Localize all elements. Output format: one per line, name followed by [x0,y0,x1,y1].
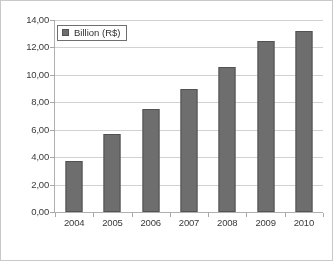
x-axis-tick-mark [285,213,286,217]
bar [66,161,83,212]
bar-column [55,20,93,212]
y-axis-tick-label: 2,00 [1,179,49,190]
plot-area [55,20,323,212]
y-axis-tick-label: 14,00 [1,14,49,25]
y-axis-tick-label: 10,00 [1,69,49,80]
bar-column [170,20,208,212]
chart-legend: Billion (R$) [57,25,127,41]
bar [104,134,121,212]
x-axis-tick-label: 2009 [246,217,284,228]
x-axis-tick-label: 2005 [93,217,131,228]
bar [142,109,159,212]
bar-column [93,20,131,212]
bar [180,89,197,212]
y-axis-tick-mark [50,130,55,131]
y-axis-tick-mark [50,20,55,21]
x-axis-tick-mark [208,213,209,217]
x-axis-line [54,212,323,213]
bar-column [285,20,323,212]
bar-column [246,20,284,212]
y-axis-tick-mark [50,185,55,186]
bar-chart: 0,002,004,006,008,0010,0012,0014,00 2004… [0,0,333,261]
legend-color-swatch [62,29,69,36]
y-axis-tick-mark [50,157,55,158]
x-axis-tick-label: 2004 [55,217,93,228]
x-axis-tick-mark [246,213,247,217]
y-axis-tick-label: 4,00 [1,151,49,162]
bar-column [132,20,170,212]
x-axis-tick-label: 2007 [170,217,208,228]
x-axis-tick-mark [93,213,94,217]
y-axis-tick-label: 8,00 [1,96,49,107]
x-axis-tick-mark [132,213,133,217]
y-axis-tick-label: 12,00 [1,41,49,52]
legend-label: Billion (R$) [74,28,120,38]
y-axis-tick-mark [50,75,55,76]
x-axis-tick-label: 2008 [208,217,246,228]
bar [219,67,236,212]
y-axis-tick-mark [50,47,55,48]
y-axis-tick-label: 0,00 [1,206,49,217]
bar-column [208,20,246,212]
y-axis-tick-label: 6,00 [1,124,49,135]
y-axis: 0,002,004,006,008,0010,0012,0014,00 [1,1,51,263]
x-axis-tick-mark [170,213,171,217]
x-axis-tick-mark [323,213,324,217]
bar [257,41,274,212]
y-axis-tick-mark [50,102,55,103]
x-axis-tick-label: 2010 [285,217,323,228]
x-axis-tick-label: 2006 [132,217,170,228]
bar [295,31,312,212]
x-axis-tick-mark [55,213,56,217]
x-axis: 2004200520062007200820092010 [55,217,323,237]
